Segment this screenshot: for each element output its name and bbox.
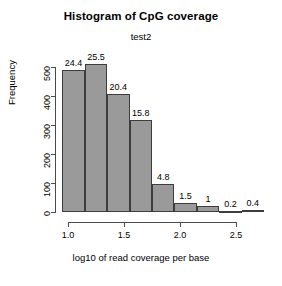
x-axis-tick-label: 1.0: [53, 230, 83, 240]
histogram-bar: [62, 70, 84, 212]
x-axis-line: [68, 222, 236, 223]
bar-value-label: 20.4: [93, 82, 143, 92]
x-axis-tick: [68, 222, 69, 227]
histogram-bar: [174, 203, 196, 212]
x-axis-tick: [180, 222, 181, 227]
y-axis-label: Frequency: [6, 60, 17, 105]
y-axis-tick-label: 100: [42, 182, 52, 200]
x-axis-tick-label: 2.5: [221, 230, 251, 240]
x-axis-tick: [236, 222, 237, 227]
x-axis-tick-label: 1.5: [109, 230, 139, 240]
bar-value-label: 25.5: [71, 52, 121, 62]
x-axis-tick-label: 2.0: [165, 230, 195, 240]
histogram-bar: [242, 210, 264, 212]
plot-panel: 24.425.520.415.84.81.510.20.4 0100200300…: [0, 0, 282, 286]
x-axis-label: log10 of read coverage per base: [0, 252, 282, 263]
y-axis-tick-label: 500: [42, 66, 52, 84]
y-axis-tick-label: 300: [42, 124, 52, 142]
y-axis-tick-label: 400: [42, 95, 52, 113]
y-axis-tick-label: 0: [42, 211, 52, 229]
bar-value-label: 4.8: [138, 172, 188, 182]
histogram-plot: Histogram of CpG coverage test2 24.425.5…: [0, 0, 282, 286]
histogram-bar: [130, 120, 152, 212]
y-axis-line: [55, 67, 56, 212]
bar-value-label: 15.8: [116, 108, 166, 118]
x-axis-tick: [124, 222, 125, 227]
y-axis-tick-label: 200: [42, 153, 52, 171]
histogram-bar: [219, 211, 241, 213]
bar-value-label: 0.4: [228, 198, 278, 208]
